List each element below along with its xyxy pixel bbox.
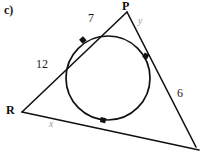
- part-label: c): [4, 4, 13, 16]
- segment-label-y: y: [138, 16, 142, 26]
- geometry-figure: c) P R 7 12 6 y x: [0, 0, 203, 154]
- triangle-side-P-bottomright: [127, 12, 196, 147]
- tangent-point-bottom: [100, 117, 106, 123]
- vertex-label-r: R: [6, 104, 15, 116]
- segment-label-twelve: 12: [36, 58, 48, 70]
- segment-label-x: x: [49, 119, 53, 129]
- vertex-label-p: P: [122, 0, 129, 12]
- segment-label-seven: 7: [88, 12, 94, 24]
- inscribed-circle: [66, 36, 150, 120]
- figure-canvas: [0, 0, 203, 154]
- segment-label-six: 6: [177, 87, 183, 99]
